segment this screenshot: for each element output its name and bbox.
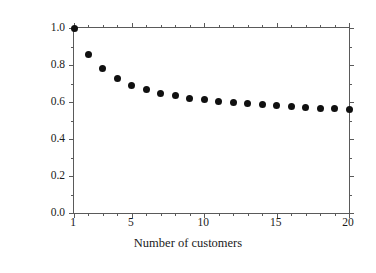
y-axis-tick [69, 102, 74, 103]
x-axis-tick [233, 213, 234, 216]
y-axis-tick-right [349, 121, 352, 122]
x-axis-tick-top [190, 25, 191, 28]
data-point [128, 82, 135, 89]
y-axis-tick [69, 139, 74, 140]
x-axis-tick-top [204, 23, 205, 28]
data-point [302, 104, 309, 111]
y-axis-tick-right [349, 139, 354, 140]
x-axis-tick-top [132, 23, 133, 28]
x-axis-tick [190, 213, 191, 216]
plot-area [73, 27, 350, 214]
data-point [273, 102, 280, 109]
y-axis-tick [71, 195, 74, 196]
data-point [317, 105, 324, 112]
y-axis-tick-right [349, 65, 354, 66]
x-axis-tick [306, 213, 307, 216]
data-point [172, 92, 179, 99]
x-axis-tick-top [248, 25, 249, 28]
x-axis-tick-label: 20 [342, 216, 354, 228]
y-axis-tick-label: 0.8 [51, 58, 65, 70]
y-axis-tick-right [349, 102, 354, 103]
y-axis-tick [69, 65, 74, 66]
x-axis-tick-top [219, 25, 220, 28]
y-axis-tick-right [349, 47, 352, 48]
x-axis-tick-top [335, 25, 336, 28]
x-axis-tick-label: 1 [70, 216, 76, 228]
y-axis-tick-right [349, 84, 352, 85]
chart-figure: Coincident factor Number of customers 15… [0, 0, 376, 273]
y-axis-tick [71, 158, 74, 159]
x-axis-tick [175, 213, 176, 216]
data-point [71, 25, 78, 32]
x-axis-tick-label: 10 [198, 216, 210, 228]
y-axis-tick-right [349, 28, 354, 29]
y-axis-tick-right [349, 158, 352, 159]
x-axis-tick-top [161, 25, 162, 28]
y-axis-tick-label: 0.6 [51, 95, 65, 107]
x-axis-tick-top [103, 25, 104, 28]
x-axis-tick-top [277, 23, 278, 28]
x-axis-tick [88, 213, 89, 216]
data-point [215, 98, 222, 105]
data-point [99, 65, 106, 72]
x-axis-tick-top [146, 25, 147, 28]
x-axis-tick-top [291, 25, 292, 28]
x-axis-tick [262, 213, 263, 216]
x-axis-tick [146, 213, 147, 216]
data-point [157, 90, 164, 97]
x-axis-tick [219, 213, 220, 216]
x-axis-tick [117, 213, 118, 216]
y-axis-tick [69, 176, 74, 177]
data-point [331, 105, 338, 112]
data-point [288, 103, 295, 110]
y-axis-tick-right [349, 195, 352, 196]
x-axis-tick-top [320, 25, 321, 28]
y-axis-tick-label: 0.4 [51, 132, 65, 144]
x-axis-tick-label: 15 [270, 216, 282, 228]
data-point [85, 51, 92, 58]
x-axis-tick [335, 213, 336, 216]
x-axis-tick-top [262, 25, 263, 28]
x-axis-tick-label: 5 [128, 216, 134, 228]
x-axis-title: Number of customers [0, 236, 376, 251]
x-axis-tick [103, 213, 104, 216]
data-point [244, 100, 251, 107]
y-axis-tick [71, 47, 74, 48]
y-axis-tick [71, 84, 74, 85]
y-axis-tick-label: 1.0 [51, 21, 65, 33]
x-axis-tick [248, 213, 249, 216]
x-axis-tick-top [117, 25, 118, 28]
y-axis-tick-right [349, 213, 354, 214]
x-axis-tick-top [306, 25, 307, 28]
data-point [201, 96, 208, 103]
y-axis-tick [71, 121, 74, 122]
x-axis-tick [320, 213, 321, 216]
y-axis-tick-label: 0.2 [51, 169, 65, 181]
x-axis-tick [161, 213, 162, 216]
x-axis-tick-top [233, 25, 234, 28]
data-point [186, 95, 193, 102]
data-point [143, 86, 150, 93]
y-axis-tick-right [349, 176, 354, 177]
x-axis-tick [291, 213, 292, 216]
x-axis-tick-top [175, 25, 176, 28]
x-axis-tick-top [88, 25, 89, 28]
y-axis-tick-label: 0.0 [51, 206, 65, 218]
y-axis-tick [69, 213, 74, 214]
data-point [259, 101, 266, 108]
data-point [114, 75, 121, 82]
data-point [346, 106, 353, 113]
data-point [230, 99, 237, 106]
